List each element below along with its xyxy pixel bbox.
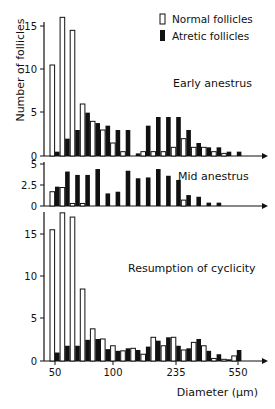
- bar-atretic: [156, 341, 161, 361]
- bar-normal: [121, 351, 126, 361]
- bar-atretic: [196, 197, 201, 206]
- bar-normal: [181, 350, 186, 361]
- bar-normal: [222, 153, 227, 156]
- x-tick-550: 550: [228, 367, 247, 378]
- bar-atretic: [227, 359, 232, 361]
- y-tick-label: 0: [31, 201, 37, 212]
- bar-atretic: [237, 152, 242, 156]
- bar-atretic: [146, 177, 151, 206]
- bar-atretic: [186, 130, 191, 156]
- bar-normal: [111, 143, 116, 156]
- bar-normal: [50, 65, 55, 156]
- bar-atretic: [95, 123, 100, 156]
- bar-atretic: [65, 172, 70, 206]
- bar-atretic: [207, 351, 212, 361]
- bar-atretic: [166, 176, 171, 206]
- bar-atretic: [55, 152, 60, 156]
- bar-atretic: [196, 143, 201, 156]
- x-axis-title: Diameter (µm): [177, 386, 258, 399]
- bar-normal: [60, 213, 65, 361]
- bar-normal: [101, 130, 106, 156]
- bar-atretic: [217, 203, 222, 206]
- bar-normal: [191, 147, 196, 156]
- bar-normal: [70, 203, 75, 206]
- bar-normal: [121, 152, 126, 156]
- bar-normal: [161, 346, 166, 361]
- legend: Normal follicles Atretic follicles: [160, 13, 253, 42]
- y-tick-label: 5: [31, 159, 37, 170]
- bar-atretic: [106, 349, 111, 361]
- bar-normal: [80, 104, 85, 156]
- bar-normal: [80, 289, 85, 361]
- bar-atretic: [126, 348, 131, 361]
- legend-label-normal: Normal follicles: [172, 13, 253, 25]
- bar-normal: [171, 147, 176, 156]
- bar-normal: [161, 152, 166, 156]
- bar-atretic: [207, 203, 212, 206]
- bar-normal: [90, 329, 95, 361]
- panel-1: 02.55: [21, 159, 268, 212]
- bar-atretic: [156, 117, 161, 156]
- panel-label-early-anestrus: Early anestrus: [173, 77, 252, 90]
- bar-atretic: [227, 152, 232, 156]
- bar-atretic: [166, 117, 171, 156]
- bar-atretic: [106, 126, 111, 156]
- y-tick-label: 0: [31, 356, 37, 367]
- bar-atretic: [176, 117, 181, 156]
- y-tick-label: 10: [24, 64, 37, 75]
- bar-atretic: [95, 339, 100, 361]
- x-axis-arrow-icon: [262, 153, 268, 159]
- bar-atretic: [217, 147, 222, 156]
- bar-normal: [141, 354, 146, 361]
- bar-atretic: [95, 169, 100, 206]
- bar-atretic: [146, 347, 151, 361]
- bar-normal: [191, 342, 196, 361]
- x-tick-50: 50: [49, 367, 62, 378]
- bar-atretic: [85, 175, 90, 206]
- bar-normal: [151, 337, 156, 361]
- x-tick-100: 100: [103, 367, 122, 378]
- bar-normal: [171, 337, 176, 361]
- bar-normal: [202, 147, 207, 156]
- bar-normal: [131, 348, 136, 361]
- bar-normal: [50, 192, 55, 206]
- bar-atretic: [136, 178, 141, 206]
- bar-atretic: [55, 187, 60, 206]
- bar-atretic: [106, 193, 111, 206]
- bar-atretic: [55, 353, 60, 361]
- y-tick-label: 15: [24, 21, 37, 32]
- y-tick-label: 2.5: [21, 180, 37, 191]
- bar-atretic: [166, 337, 171, 361]
- bar-normal: [70, 30, 75, 156]
- bar-atretic: [85, 340, 90, 361]
- bar-normal: [60, 188, 65, 206]
- follicle-histogram-chart: Number of follicles Normal follicles Atr…: [0, 0, 275, 409]
- bar-atretic: [85, 113, 90, 156]
- y-tick-label: 5: [31, 313, 37, 324]
- bar-normal: [70, 217, 75, 361]
- bar-normal: [50, 230, 55, 361]
- bar-normal: [151, 152, 156, 156]
- x-tick-labels: 50 100 235 550: [49, 367, 248, 378]
- bar-atretic: [116, 351, 121, 361]
- panels: 05101502.55051015: [21, 17, 268, 366]
- panel-label-mid-anestrus: Mid anestrus: [178, 170, 249, 183]
- bar-atretic: [237, 350, 242, 361]
- x-tick-235: 235: [166, 367, 185, 378]
- bar-atretic: [196, 339, 201, 361]
- bar-atretic: [116, 192, 121, 206]
- x-axis-arrow-icon: [262, 203, 268, 209]
- bar-normal: [222, 359, 227, 361]
- y-tick-label: 5: [31, 107, 37, 118]
- bar-normal: [141, 152, 146, 156]
- bar-atretic: [65, 139, 70, 156]
- bar-atretic: [176, 180, 181, 206]
- bar-normal: [111, 346, 116, 361]
- bar-atretic: [75, 130, 80, 156]
- bar-atretic: [116, 130, 121, 156]
- panel-label-resumption: Resumption of cyclicity: [128, 262, 256, 275]
- bar-atretic: [126, 130, 131, 156]
- x-axis-arrow-icon: [262, 358, 268, 364]
- bar-atretic: [186, 195, 191, 206]
- bar-atretic: [186, 348, 191, 361]
